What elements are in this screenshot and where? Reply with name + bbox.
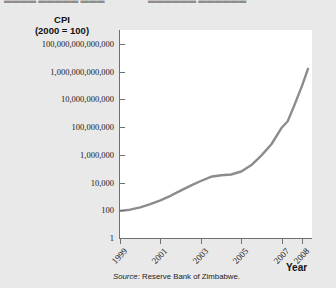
y-axis-tick-label: 100 [8, 205, 114, 215]
cropped-headline-strip: ▬▬▬▬ ▬▬▬▬▬ ▬▬▬ ▬▬▬▬▬▬ ▬▬▬▬▬▬ [0, 0, 336, 9]
page-right-margin [312, 0, 336, 288]
x-axis-tick-label: 1999 [106, 246, 130, 270]
y-axis-tick-label: 10,000,000,000 [8, 94, 114, 104]
y-axis-tick-label: 10,000 [8, 178, 114, 188]
chart-plot-area [120, 30, 312, 238]
x-axis-tick [201, 239, 202, 244]
headline-fragment-left: ▬▬▬▬ ▬▬▬▬▬ ▬▬▬ [4, 0, 104, 5]
y-axis-title-line1: CPI [8, 14, 116, 25]
y-axis-tick [120, 72, 125, 73]
y-axis-tick [120, 183, 125, 184]
y-axis-line [119, 30, 120, 239]
y-axis-tick [120, 155, 125, 156]
x-axis-line [119, 238, 312, 239]
y-axis-tick [120, 210, 125, 211]
x-axis-tick-label: 2005 [227, 246, 251, 270]
x-axis-title: Year [286, 262, 307, 273]
x-axis-tick [241, 239, 242, 244]
y-axis-title-line2: (2000 = 100) [8, 25, 116, 36]
y-axis-tick-label: 1 [8, 233, 114, 243]
x-axis-tick [302, 239, 303, 244]
y-axis-title: CPI (2000 = 100) [8, 14, 116, 36]
headline-fragment-right: ▬▬▬▬▬▬ ▬▬▬▬▬▬ [148, 0, 246, 5]
y-axis-tick [120, 99, 125, 100]
x-axis-tick [282, 239, 283, 244]
y-axis-tick-label: 100,000,000,000,000 [8, 39, 114, 49]
y-axis-tick-label: 100,000,000 [8, 122, 114, 132]
y-axis-tick-label: 1,000,000,000,000 [8, 67, 114, 77]
x-axis-tick-label: 2001 [146, 246, 170, 270]
y-axis-tick-label: 1,000,000 [8, 150, 114, 160]
source-text: Reserve Bank of Zimbabwe. [142, 272, 240, 281]
x-axis-tick [160, 239, 161, 244]
x-axis-tick-label: 2003 [187, 246, 211, 270]
source-note: Source: Reserve Bank of Zimbabwe. [113, 272, 240, 281]
x-axis-tick [120, 239, 121, 244]
y-axis-tick [120, 127, 125, 128]
y-axis-tick [120, 44, 125, 45]
cpi-line-series [120, 30, 312, 238]
source-label: Source: [113, 272, 140, 281]
